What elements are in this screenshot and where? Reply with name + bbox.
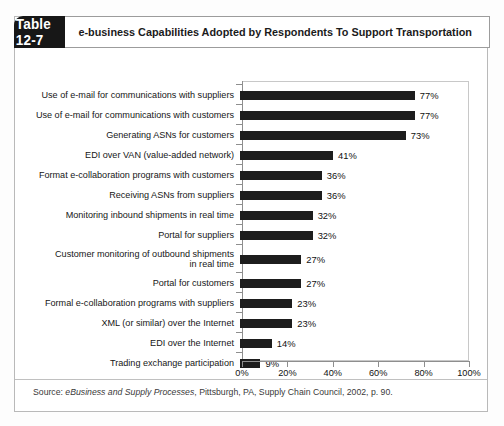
bar bbox=[240, 279, 301, 288]
category-label: Customer monitoring of outbound shipment… bbox=[15, 249, 239, 270]
x-axis-tick-label: 40% bbox=[324, 368, 342, 378]
x-axis-tick-label: 20% bbox=[278, 368, 296, 378]
category-label: Format e-collaboration programs with cus… bbox=[15, 170, 239, 181]
category-label: XML (or similar) over the Internet bbox=[15, 318, 239, 329]
category-label: Receiving ASNs from suppliers bbox=[15, 190, 239, 201]
table-header: Table 12-7 e-business Capabilities Adopt… bbox=[14, 16, 490, 48]
source-suffix: , Pittsburgh, PA, Supply Chain Council, … bbox=[194, 387, 392, 397]
bar bbox=[240, 339, 272, 348]
bar-track: 32% bbox=[239, 205, 489, 225]
bar-value-label: 73% bbox=[411, 130, 430, 141]
table-title: e-business Capabilities Adopted by Respo… bbox=[65, 26, 472, 38]
x-axis-tick bbox=[287, 362, 288, 367]
chart-row: Formal e-collaboration programs with sup… bbox=[15, 293, 489, 313]
source-divider bbox=[15, 379, 487, 380]
source-prefix: Source: bbox=[33, 387, 65, 397]
category-label: Generating ASNs for customers bbox=[15, 130, 239, 141]
table-title-container: e-business Capabilities Adopted by Respo… bbox=[65, 16, 490, 48]
x-axis-tick bbox=[424, 362, 425, 367]
x-axis-tick-label: 60% bbox=[369, 368, 387, 378]
x-axis-tick bbox=[242, 362, 243, 367]
category-label: Use of e-mail for communications with cu… bbox=[15, 110, 239, 121]
chart-rows: Use of e-mail for communications with su… bbox=[15, 85, 489, 373]
chart-row: Customer monitoring of outbound shipment… bbox=[15, 245, 489, 273]
source-title: eBusiness and Supply Processes bbox=[65, 387, 194, 397]
category-label: Portal for customers bbox=[15, 278, 239, 289]
x-axis-tick-label: 0% bbox=[235, 368, 248, 378]
chart-row: Format e-collaboration programs with cus… bbox=[15, 165, 489, 185]
bar-track: 27% bbox=[239, 273, 489, 293]
bar bbox=[240, 111, 415, 120]
bar-chart: Use of e-mail for communications with su… bbox=[15, 49, 489, 379]
bar-track: 36% bbox=[239, 185, 489, 205]
category-label: EDI over the Internet bbox=[15, 338, 239, 349]
bar-track: 77% bbox=[239, 85, 489, 105]
chart-row: XML (or similar) over the Internet23% bbox=[15, 313, 489, 333]
bar-track: 14% bbox=[239, 333, 489, 353]
chart-row: Portal for customers27% bbox=[15, 273, 489, 293]
table-number-label: Table 12-7 bbox=[16, 16, 64, 48]
bar-value-label: 23% bbox=[297, 298, 316, 309]
bar bbox=[240, 211, 313, 220]
bar bbox=[240, 255, 301, 264]
bar-track: 36% bbox=[239, 165, 489, 185]
chart-row: Receiving ASNs from suppliers36% bbox=[15, 185, 489, 205]
bar bbox=[240, 171, 322, 180]
table-number-badge: Table 12-7 bbox=[14, 16, 65, 48]
chart-row: Use of e-mail for communications with su… bbox=[15, 85, 489, 105]
x-axis-tick-label: 80% bbox=[414, 368, 432, 378]
category-label: Monitoring inbound shipments in real tim… bbox=[15, 210, 239, 221]
bar bbox=[240, 131, 406, 140]
bar bbox=[240, 231, 313, 240]
bar-value-label: 14% bbox=[277, 338, 296, 349]
bar-track: 41% bbox=[239, 145, 489, 165]
bar bbox=[240, 299, 292, 308]
x-axis-tick bbox=[469, 362, 470, 367]
page-root: Table 12-7 e-business Capabilities Adopt… bbox=[0, 0, 504, 426]
bar-value-label: 36% bbox=[327, 170, 346, 181]
chart-row: EDI over the Internet14% bbox=[15, 333, 489, 353]
x-axis-tick bbox=[378, 362, 379, 367]
bar-value-label: 41% bbox=[338, 150, 357, 161]
category-label: Portal for suppliers bbox=[15, 230, 239, 241]
bar-track: 23% bbox=[239, 313, 489, 333]
category-label: Use of e-mail for communications with su… bbox=[15, 90, 239, 101]
bar-value-label: 23% bbox=[297, 318, 316, 329]
bar bbox=[240, 319, 292, 328]
bar bbox=[240, 151, 333, 160]
category-label: Trading exchange participation bbox=[15, 358, 239, 369]
bar-track: 73% bbox=[239, 125, 489, 145]
bar-value-label: 77% bbox=[420, 110, 439, 121]
bar-track: 23% bbox=[239, 293, 489, 313]
bar-value-label: 36% bbox=[327, 190, 346, 201]
chart-row: Monitoring inbound shipments in real tim… bbox=[15, 205, 489, 225]
chart-row: Portal for suppliers32% bbox=[15, 225, 489, 245]
bar bbox=[240, 91, 415, 100]
bar bbox=[240, 191, 322, 200]
table-card: Table 12-7 e-business Capabilities Adopt… bbox=[14, 16, 488, 412]
chart-row: EDI over VAN (value-added network)41% bbox=[15, 145, 489, 165]
category-label: EDI over VAN (value-added network) bbox=[15, 150, 239, 161]
bar-track: 32% bbox=[239, 225, 489, 245]
source-note: Source: eBusiness and Supply Processes, … bbox=[33, 387, 393, 397]
bar-value-label: 32% bbox=[318, 210, 337, 221]
chart-row: Use of e-mail for communications with cu… bbox=[15, 105, 489, 125]
bar-track: 77% bbox=[239, 105, 489, 125]
chart-row: Generating ASNs for customers73% bbox=[15, 125, 489, 145]
bar-value-label: 27% bbox=[306, 278, 325, 289]
bar-value-label: 77% bbox=[420, 90, 439, 101]
bar-value-label: 32% bbox=[318, 230, 337, 241]
bar-value-label: 27% bbox=[306, 254, 325, 265]
x-axis-tick-label: 100% bbox=[457, 368, 481, 378]
x-axis-tick bbox=[333, 362, 334, 367]
bar-track: 27% bbox=[239, 245, 489, 273]
category-label: Formal e-collaboration programs with sup… bbox=[15, 298, 239, 309]
